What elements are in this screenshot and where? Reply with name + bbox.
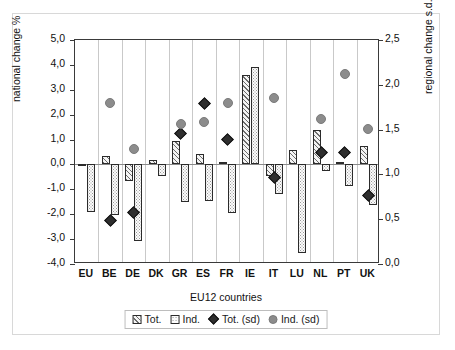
bar-pt-ind — [345, 164, 353, 186]
y-tick-label-left: -3,0 — [13, 231, 65, 243]
y-tick-left — [70, 140, 75, 141]
y-tick-label-left: 0,0 — [13, 156, 65, 168]
bar-ie-tot — [242, 75, 250, 165]
y-tick-label-left: -4,0 — [13, 256, 65, 268]
y-tick-right — [378, 85, 383, 86]
marker-de-ind-sd — [129, 144, 139, 154]
y-tick-right — [378, 130, 383, 131]
category-gridline — [98, 40, 99, 262]
dotted-square-icon — [170, 315, 179, 324]
bar-be-tot — [102, 156, 110, 165]
bar-gr-tot — [172, 141, 180, 165]
legend-item[interactable]: Tot. (sd) — [209, 314, 260, 325]
category-gridline — [333, 40, 334, 262]
bar-dk-tot — [149, 160, 157, 164]
chart-figure: national change % regional change s.d. E… — [12, 13, 440, 335]
x-tick-label-fr: FR — [215, 267, 238, 279]
x-tick-label-de: DE — [121, 267, 144, 279]
x-tick-label-lu: LU — [285, 267, 308, 279]
category-gridline — [145, 40, 146, 262]
y-tick-label-left: 5,0 — [13, 32, 65, 44]
legend-item-label: Tot. (sd) — [222, 314, 260, 325]
black-diamond-icon — [208, 314, 219, 325]
gray-circle-icon — [269, 315, 278, 324]
bar-be-ind — [111, 164, 119, 215]
y-tick-left — [70, 214, 75, 215]
marker-gr-ind-sd — [176, 119, 186, 129]
bar-de-ind — [134, 164, 142, 240]
legend-item[interactable]: Ind. (sd) — [269, 314, 320, 325]
hatch-square-icon — [133, 315, 142, 324]
marker-uk-ind-sd — [363, 124, 373, 134]
category-gridline — [169, 40, 170, 262]
legend-item-label: Tot. — [145, 314, 162, 325]
bar-fr-ind — [228, 164, 236, 213]
y-tick-label-left: 2,0 — [13, 107, 65, 119]
marker-pt-tot-sd — [338, 147, 351, 160]
bar-uk-tot — [360, 146, 368, 165]
bar-ie-ind — [251, 67, 259, 165]
y-tick-label-right: 2,5 — [385, 32, 425, 44]
marker-it-ind-sd — [269, 93, 279, 103]
x-tick-label-es: ES — [191, 267, 214, 279]
x-tick-label-be: BE — [97, 267, 120, 279]
x-tick-label-pt: PT — [332, 267, 355, 279]
x-tick-label-uk: UK — [356, 267, 379, 279]
marker-pt-ind-sd — [340, 69, 350, 79]
bar-de-tot — [125, 164, 133, 180]
y-tick-right — [378, 174, 383, 175]
bar-nl-ind — [322, 164, 330, 170]
plot-inner — [75, 40, 378, 262]
y-tick-left — [70, 239, 75, 240]
plot-area — [74, 39, 379, 263]
category-gridline — [192, 40, 193, 262]
y-tick-label-left: -1,0 — [13, 181, 65, 193]
y-tick-label-left: -2,0 — [13, 206, 65, 218]
legend-item[interactable]: Ind. — [170, 314, 200, 325]
y-tick-label-right: 0,5 — [385, 211, 425, 223]
category-gridline — [239, 40, 240, 262]
marker-nl-ind-sd — [316, 114, 326, 124]
bar-eu-tot — [78, 164, 86, 166]
bar-es-ind — [205, 164, 213, 200]
bar-lu-ind — [298, 164, 306, 252]
y-tick-label-left: 1,0 — [13, 132, 65, 144]
category-gridline — [310, 40, 311, 262]
y-tick-right — [378, 264, 383, 265]
category-gridline — [216, 40, 217, 262]
category-gridline — [263, 40, 264, 262]
x-axis-title: EU12 countries — [13, 291, 439, 303]
y-tick-label-right: 1,0 — [385, 166, 425, 178]
y-tick-label-left: 4,0 — [13, 57, 65, 69]
y-tick-label-right: 1,5 — [385, 122, 425, 134]
y-tick-label-right: 0,0 — [385, 256, 425, 268]
category-gridline — [357, 40, 358, 262]
bar-dk-ind — [158, 164, 166, 176]
y-tick-left — [70, 264, 75, 265]
x-tick-label-gr: GR — [168, 267, 191, 279]
category-gridline — [122, 40, 123, 262]
chart-legend: Tot.Ind.Tot. (sd)Ind. (sd) — [125, 310, 328, 329]
x-tick-label-it: IT — [262, 267, 285, 279]
marker-es-tot-sd — [198, 97, 211, 110]
y-tick-right — [378, 219, 383, 220]
category-gridline — [286, 40, 287, 262]
x-tick-label-ie: IE — [238, 267, 261, 279]
bar-pt-tot — [336, 162, 344, 164]
legend-item-label: Ind. — [182, 314, 200, 325]
y-tick-left — [70, 65, 75, 66]
y-tick-left — [70, 40, 75, 41]
marker-be-ind-sd — [105, 98, 115, 108]
y-tick-left — [70, 164, 75, 165]
y-tick-right — [378, 40, 383, 41]
x-tick-label-nl: NL — [309, 267, 332, 279]
bar-es-tot — [196, 154, 204, 164]
y-tick-label-left: 3,0 — [13, 82, 65, 94]
marker-fr-tot-sd — [221, 133, 234, 146]
zero-baseline — [75, 164, 378, 165]
bar-fr-tot — [219, 162, 227, 164]
legend-item-label: Ind. (sd) — [281, 314, 320, 325]
legend-item[interactable]: Tot. — [133, 314, 162, 325]
marker-es-ind-sd — [199, 117, 209, 127]
x-tick-label-dk: DK — [144, 267, 167, 279]
